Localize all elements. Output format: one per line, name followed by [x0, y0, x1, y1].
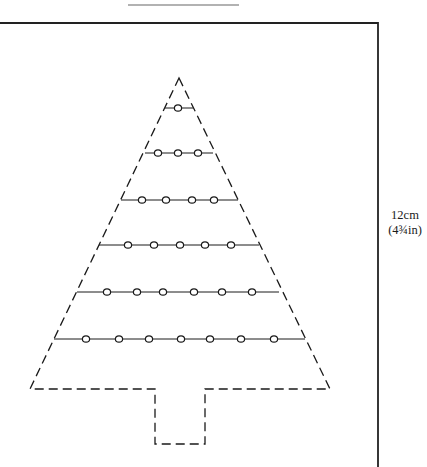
bead-icon	[145, 336, 152, 342]
bead-icon	[133, 289, 140, 295]
bead-icon	[227, 242, 234, 248]
bead-icon	[82, 336, 89, 342]
tree-outline-dashed	[30, 78, 330, 444]
bead-icon	[270, 336, 277, 342]
height-dimension-label: 12cm (4¾in)	[383, 208, 427, 238]
bead-icon	[115, 336, 122, 342]
bead-row-3	[121, 197, 238, 203]
bead-icon	[218, 289, 225, 295]
bead-icon	[154, 150, 161, 156]
bead-icon	[201, 242, 208, 248]
dimension-imperial: (4¾in)	[383, 223, 427, 238]
bead-icon	[162, 197, 169, 203]
bead-icon	[176, 242, 183, 248]
bead-icon	[103, 289, 110, 295]
bead-row-1	[165, 105, 193, 111]
bead-garlands	[54, 105, 305, 342]
bead-icon	[174, 150, 181, 156]
bead-icon	[248, 289, 255, 295]
bead-row-5	[77, 289, 279, 295]
bead-row-4	[99, 242, 259, 248]
bead-icon	[188, 197, 195, 203]
dimension-metric: 12cm	[383, 208, 427, 223]
bead-icon	[177, 336, 184, 342]
bead-icon	[206, 336, 213, 342]
bead-row-6	[54, 336, 305, 342]
bead-icon	[210, 197, 217, 203]
bead-icon	[124, 242, 131, 248]
bead-icon	[237, 336, 244, 342]
bead-icon	[150, 242, 157, 248]
bead-row-2	[145, 150, 213, 156]
bead-icon	[159, 289, 166, 295]
tree-template-diagram	[0, 0, 427, 467]
bead-icon	[174, 105, 181, 111]
bead-icon	[194, 150, 201, 156]
bead-icon	[190, 289, 197, 295]
bead-icon	[138, 197, 145, 203]
